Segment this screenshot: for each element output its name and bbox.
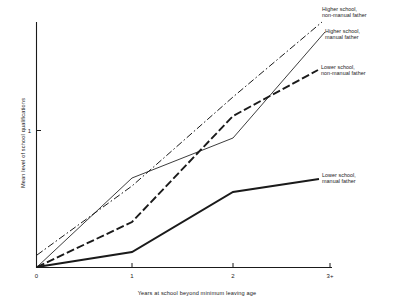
series-label-lower-non-manual: Lower school, non-manual father bbox=[321, 64, 366, 77]
series-label-lower-manual: Lower school, manual father bbox=[322, 172, 356, 185]
x-axis-title: Years at school beyond minimum leaving a… bbox=[138, 290, 257, 296]
series-label-higher-manual: Higher school, manual father bbox=[325, 28, 360, 41]
series-label-line-2: manual father bbox=[322, 178, 356, 184]
chart-figure: 1 0 1 2 3+ Years at school beyond minimu… bbox=[0, 0, 398, 304]
series-line-higher-non-manual bbox=[37, 22, 322, 255]
series-line-lower-non-manual bbox=[37, 70, 318, 267]
x-tick-label-3: 3+ bbox=[327, 273, 334, 279]
line-chart-canvas: 1 0 1 2 3+ Years at school beyond minimu… bbox=[0, 0, 398, 304]
series-label-line-2: manual father bbox=[325, 34, 360, 40]
x-tick-label-0: 0 bbox=[35, 273, 39, 279]
x-tick-label-1: 1 bbox=[130, 273, 134, 279]
series-label-higher-non-manual: Higher school, non-manual father bbox=[322, 6, 367, 19]
y-tick-label-1: 1 bbox=[28, 128, 32, 134]
series-line-higher-manual bbox=[37, 32, 325, 267]
y-axis-title: Mean level of school qualifications bbox=[20, 98, 26, 188]
series-label-line-2: non-manual father bbox=[321, 70, 366, 76]
x-tick-label-2: 2 bbox=[231, 273, 235, 279]
series-label-line-2: non-manual father bbox=[322, 12, 367, 18]
series-line-lower-manual bbox=[37, 179, 319, 267]
